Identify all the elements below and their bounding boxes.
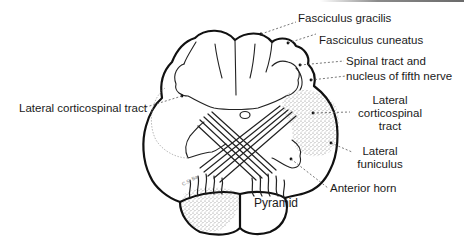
label-lateral-corticospinal-left: Lateral corticospinal tract [19,102,147,115]
artist-signature: C.S. Ba [181,173,199,186]
label-spinal-tract-line1: Spinal tract and [346,55,426,68]
label-fasciculus-cuneatus: Fasciculus cuneatus [319,34,423,47]
stippled-lateral-corticospinal-right [282,90,339,157]
decussation-fibers [189,106,296,198]
label-lateral-cs-right-line1: Lateral [348,94,432,107]
label-lateral-cs-right-line2: corticospinal [348,107,432,120]
label-lateral-funiculus-line2: funiculus [345,158,415,171]
central-canal [240,112,250,119]
label-anterior-horn: Anterior horn [330,182,396,195]
label-fasciculus-gracilis: Fasciculus gracilis [298,12,391,25]
label-spinal-tract-line2: nucleus of fifth nerve [346,70,452,83]
label-pyramid: Pyramid [254,197,298,210]
label-lateral-funiculus-line1: Lateral [345,145,415,158]
label-lateral-cs-right-line3: tract [348,120,432,133]
